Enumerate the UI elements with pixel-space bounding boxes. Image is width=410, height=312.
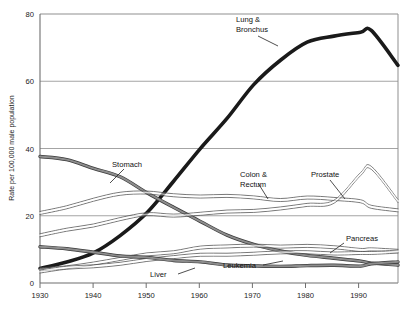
y-axis-title: Rate per 100,000 male population — [8, 95, 16, 201]
x-tick-1940: 1940 — [85, 291, 102, 300]
y-tick-60: 60 — [26, 77, 34, 86]
series-label-colon-line2: Rectum — [240, 180, 266, 189]
y-tick-40: 40 — [26, 145, 34, 154]
x-tick-1990: 1990 — [350, 291, 367, 300]
x-tick-1960: 1960 — [191, 291, 208, 300]
series-label-pancreas: Pancreas — [346, 234, 378, 243]
series-label-leukemia: Leukemia — [223, 261, 257, 270]
x-tick-1950: 1950 — [138, 291, 155, 300]
y-tick-0: 0 — [30, 279, 34, 288]
series-label-prostate: Prostate — [311, 170, 339, 179]
series-label-lung-line2: Bronchus — [236, 25, 268, 34]
chart-svg: 0 20 40 60 80 1930 1940 1950 1960 1970 1… — [0, 0, 410, 312]
x-tick-1930: 1930 — [32, 291, 49, 300]
x-tick-1980: 1980 — [297, 291, 314, 300]
series-label-stomach: Stomach — [112, 160, 142, 169]
x-tick-1970: 1970 — [244, 291, 261, 300]
series-label-liver: Liver — [150, 270, 167, 279]
y-tick-20: 20 — [26, 212, 34, 221]
cancer-mortality-chart: 0 20 40 60 80 1930 1940 1950 1960 1970 1… — [0, 0, 410, 312]
series-label-colon-line1: Colon & — [240, 170, 267, 179]
series-label-lung-line1: Lung & — [236, 15, 260, 24]
x-tick-marks — [40, 283, 359, 288]
y-tick-80: 80 — [26, 10, 34, 19]
